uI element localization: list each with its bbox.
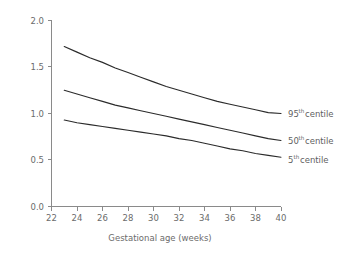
series-label-50th-superscript: th	[299, 135, 305, 141]
y-tick-label-1-5: 1.5	[30, 62, 44, 72]
series-label-50th-suffix: centile	[305, 136, 334, 146]
series-label-50th: 50 th centile	[288, 135, 334, 146]
series-label-5th: 5 th centile	[288, 154, 329, 165]
centile-chart: 2.0 1.5 1.0 0.5 0.0 22 24 26 28 30 32 34…	[0, 0, 346, 259]
x-tick-label-30: 30	[148, 213, 159, 223]
series-line-95th	[64, 47, 281, 114]
series-line-50th	[64, 90, 281, 140]
x-tick-label-40: 40	[276, 213, 287, 223]
series-label-95th-suffix: centile	[305, 109, 334, 119]
y-tick-label-0-0: 0.0	[30, 202, 44, 212]
x-tick-marks	[52, 207, 282, 211]
y-tick-label-1-0: 1.0	[30, 109, 44, 119]
series-label-5th-superscript: th	[294, 154, 300, 160]
x-tick-label-26: 26	[97, 213, 108, 223]
x-tick-label-38: 38	[250, 213, 261, 223]
series-label-95th-superscript: th	[299, 108, 305, 114]
x-tick-label-28: 28	[123, 213, 134, 223]
x-tick-label-32: 32	[174, 213, 185, 223]
series-label-95th: 95 th centile	[288, 108, 334, 119]
series-label-5th-suffix: centile	[300, 155, 329, 165]
series-label-50th-number: 50	[288, 136, 299, 146]
y-tick-label-2-0: 2.0	[30, 16, 44, 26]
x-tick-label-24: 24	[72, 213, 83, 223]
series-line-5th	[64, 120, 281, 157]
y-tick-label-0-5: 0.5	[30, 155, 44, 165]
y-tick-marks	[48, 21, 52, 207]
series-label-95th-number: 95	[288, 109, 299, 119]
chart-canvas: 2.0 1.5 1.0 0.5 0.0 22 24 26 28 30 32 34…	[0, 0, 346, 259]
x-tick-label-36: 36	[225, 213, 236, 223]
x-axis-title: Gestational age (weeks)	[108, 233, 211, 243]
x-tick-label-22: 22	[46, 213, 57, 223]
x-tick-label-34: 34	[199, 213, 210, 223]
